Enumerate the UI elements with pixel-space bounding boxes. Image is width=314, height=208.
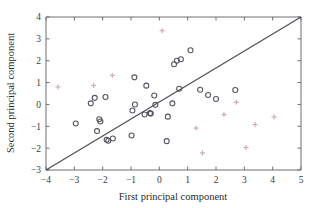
y-tick-label: 1 xyxy=(36,78,41,88)
x-tick-label: −3 xyxy=(69,175,79,185)
y-axis-title: Second principal component xyxy=(5,33,16,153)
x-tick-label: 1 xyxy=(185,175,190,185)
x-tick-label: 0 xyxy=(157,175,162,185)
y-tick-label: 3 xyxy=(36,34,41,44)
scatter-plot-figure: −4−3−2−1012345 −3−2−101234 First princip… xyxy=(0,0,314,208)
y-tick-label: −1 xyxy=(31,122,41,132)
x-tick-label: −2 xyxy=(98,175,108,185)
x-tick-label: 2 xyxy=(214,175,219,185)
x-tick-label: −1 xyxy=(126,175,136,185)
plot-canvas: −4−3−2−1012345 −3−2−101234 First princip… xyxy=(0,0,314,208)
y-tick-label: −2 xyxy=(31,144,41,154)
x-tick-label: 3 xyxy=(242,175,247,185)
y-tick-label: 2 xyxy=(36,56,41,66)
x-tick-label: −4 xyxy=(41,175,51,185)
y-tick-label: 4 xyxy=(36,12,41,22)
x-tick-label: 5 xyxy=(299,175,304,185)
y-tick-label: 0 xyxy=(36,100,41,110)
x-tick-label: 4 xyxy=(270,175,275,185)
y-tick-label: −3 xyxy=(31,165,41,175)
x-axis-title: First principal component xyxy=(119,191,228,202)
